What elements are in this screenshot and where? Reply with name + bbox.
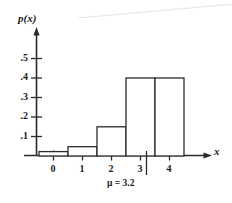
y-axis bbox=[33, 27, 39, 155]
bar-x3 bbox=[126, 78, 155, 156]
x-tick-label-2: 2 bbox=[102, 163, 120, 174]
y-tick-label-3: .3 bbox=[8, 91, 28, 102]
mean-annotation-label: μ = 3.2 bbox=[107, 178, 134, 188]
bar-x4 bbox=[155, 78, 184, 156]
bar-x2 bbox=[97, 127, 126, 156]
y-tick-label-2: .2 bbox=[8, 110, 28, 121]
bar-x0 bbox=[39, 152, 68, 156]
y-axis-title: p(x) bbox=[18, 12, 36, 24]
x-tick-label-0: 0 bbox=[44, 163, 62, 174]
bar-x1 bbox=[68, 147, 97, 156]
x-tick-label-3: 3 bbox=[131, 163, 149, 174]
histogram-bars bbox=[39, 78, 184, 156]
x-axis-title: x bbox=[214, 145, 220, 157]
x-tick-label-1: 1 bbox=[73, 163, 91, 174]
y-tick-label-5: .5 bbox=[8, 52, 28, 63]
y-tick-label-1: .1 bbox=[8, 130, 28, 141]
probability-histogram-figure: p(x) x .5 .4 .3 .2 .1 0 1 2 3 4 μ = 3.2 bbox=[0, 0, 232, 203]
x-tick-label-4: 4 bbox=[160, 163, 178, 174]
y-tick-label-4: .4 bbox=[8, 71, 28, 82]
